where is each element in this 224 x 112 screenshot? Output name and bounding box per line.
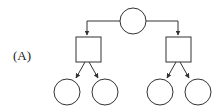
- tree-diagram: [0, 0, 224, 112]
- right-square-node: [166, 37, 191, 62]
- edge-right-leaf2: [180, 62, 189, 78]
- leaf-node-4: [185, 79, 211, 105]
- leaf-node-2: [92, 79, 118, 105]
- edge-left-leaf1: [76, 62, 85, 78]
- leaf-node-1: [54, 79, 80, 105]
- root-node: [120, 8, 146, 34]
- edge-right-leaf1: [167, 62, 176, 78]
- edge-root-left: [87, 21, 120, 35]
- leaf-node-3: [147, 79, 173, 105]
- edge-root-right: [146, 21, 178, 35]
- edge-left-leaf2: [89, 62, 98, 78]
- left-square-node: [76, 37, 101, 62]
